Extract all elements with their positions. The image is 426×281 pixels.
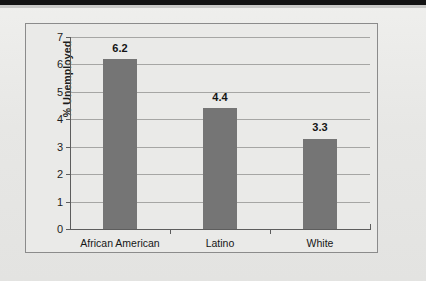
y-axis-tick-mark — [66, 37, 70, 38]
y-axis-tick-label: 1 — [57, 196, 63, 208]
plot-area: 01234567 6.24.43.3 African AmericanLatin… — [70, 37, 370, 229]
y-axis-tick-label: 5 — [57, 86, 63, 98]
x-axis-separator — [170, 229, 171, 234]
y-axis-tick-mark — [66, 202, 70, 203]
x-axis-line — [70, 229, 370, 230]
y-axis-tick-label: 3 — [57, 141, 63, 153]
x-axis-end-tick — [370, 224, 371, 230]
bar — [203, 108, 237, 229]
y-axis-tick-label: 4 — [57, 113, 63, 125]
bar — [103, 59, 137, 229]
y-axis-tick-mark — [66, 119, 70, 120]
y-axis-tick-mark — [66, 229, 70, 230]
y-axis-tick-label: 6 — [57, 58, 63, 70]
y-axis-tick-mark — [66, 147, 70, 148]
y-axis-tick-label: 2 — [57, 168, 63, 180]
bar — [303, 139, 337, 230]
scan-artifact-band-soft — [0, 5, 426, 8]
category-label: Latino — [206, 237, 235, 249]
y-axis-tick-label: 0 — [57, 223, 63, 235]
y-axis-tick-mark — [66, 64, 70, 65]
chart-page: % Unemployed 01234567 6.24.43.3 African … — [0, 0, 426, 281]
bar-value-label: 6.2 — [112, 42, 127, 54]
gridline — [70, 37, 370, 38]
category-label: African American — [80, 237, 159, 249]
y-axis-line — [70, 37, 71, 229]
bar-value-label: 4.4 — [212, 91, 227, 103]
y-axis-tick-mark — [66, 174, 70, 175]
bar-value-label: 3.3 — [312, 121, 327, 133]
y-axis-tick-label: 7 — [57, 31, 63, 43]
chart-frame: % Unemployed 01234567 6.24.43.3 African … — [25, 23, 378, 253]
category-label: White — [307, 237, 334, 249]
y-axis-tick-mark — [66, 92, 70, 93]
x-axis-separator — [270, 229, 271, 234]
